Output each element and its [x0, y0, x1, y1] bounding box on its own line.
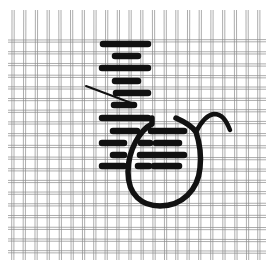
mesh-thread-vertical	[107, 10, 108, 260]
mesh-thread-horizontal	[8, 205, 266, 206]
mesh-thread-vertical	[117, 10, 118, 260]
diagram-canvas	[0, 0, 269, 265]
mesh-thread-vertical	[201, 10, 202, 260]
mesh-thread-vertical	[155, 10, 156, 260]
stitch-diagram: Needlepoint stitch illustration	[0, 0, 269, 265]
mesh-thread-vertical	[71, 10, 72, 260]
mesh-thread-horizontal	[8, 203, 266, 204]
mesh-thread-horizontal	[8, 110, 266, 111]
mesh-thread-vertical	[23, 10, 24, 260]
mesh-thread-horizontal	[8, 75, 266, 76]
mesh-thread-vertical	[189, 10, 190, 260]
mesh-thread-horizontal	[8, 192, 266, 193]
mesh-thread-vertical	[105, 10, 106, 260]
mesh-thread-horizontal	[8, 159, 266, 160]
mesh-thread-horizontal	[8, 112, 266, 113]
mesh-thread-vertical	[73, 10, 74, 260]
mesh-thread-horizontal	[8, 157, 266, 158]
mesh-thread-horizontal	[8, 63, 266, 64]
mesh-thread-horizontal	[8, 239, 266, 240]
mesh-thread-vertical	[237, 10, 238, 260]
mesh-thread-horizontal	[8, 241, 266, 242]
mesh-thread-vertical	[119, 10, 120, 260]
mesh-thread-vertical	[234, 10, 235, 260]
mesh-thread-vertical	[187, 10, 188, 260]
mesh-thread-vertical	[25, 10, 26, 260]
mesh-thread-vertical	[152, 10, 153, 260]
